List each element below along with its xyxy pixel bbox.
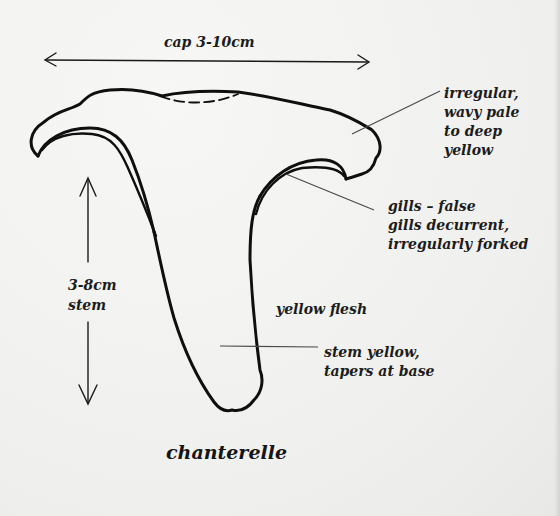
cap-size-label: cap 3-10cm [164,33,255,52]
stem-size-label: 3-8cm [68,276,117,295]
stem-word-label: stem [68,296,106,315]
diagram-title: chanterelle [166,441,287,463]
flesh-description-label: yellow flesh [276,300,367,319]
cap-description-label: irregular, wavy pale to deep yellow [444,84,519,160]
diagram-canvas: cap 3-10cm irregular, wavy pale to deep … [0,0,560,516]
stem-description-label: stem yellow, tapers at base [324,343,434,381]
mushroom-illustration [0,0,560,516]
page-edge-shadow [554,0,560,516]
gills-description-label: gills – false gills decurrent, irregular… [388,197,528,254]
cap-width-arrow [45,53,369,69]
